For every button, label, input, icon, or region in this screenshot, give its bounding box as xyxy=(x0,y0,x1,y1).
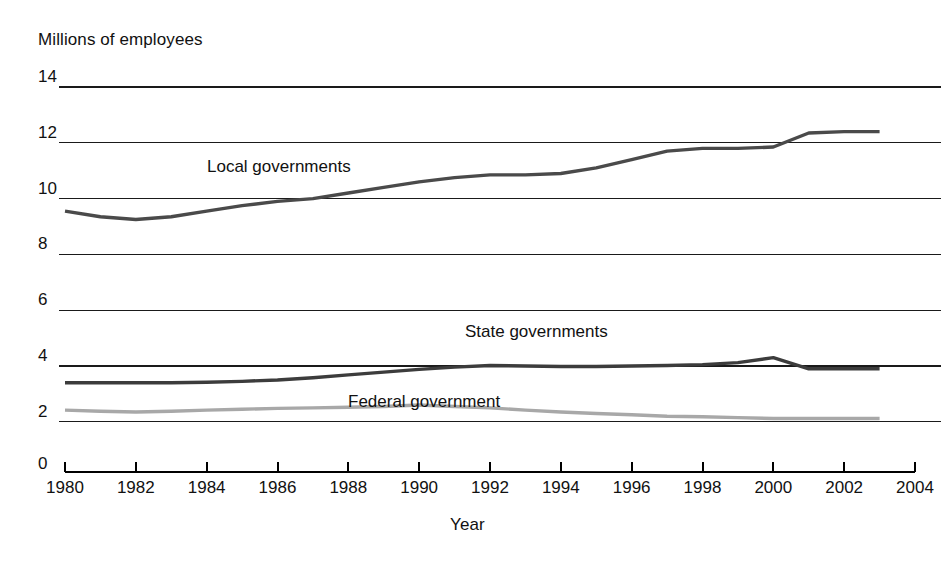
series-line-local-governments xyxy=(65,132,880,220)
x-tick-label-1994: 1994 xyxy=(542,478,580,498)
y-tick-label-2: 2 xyxy=(38,402,47,422)
chart-figure: Millions of employees 14121086420 198019… xyxy=(0,0,952,564)
x-tick-label-1990: 1990 xyxy=(400,478,438,498)
y-tick-label-10: 10 xyxy=(38,179,57,199)
x-tick-label-1980: 1980 xyxy=(46,478,84,498)
x-axis-title: Year xyxy=(450,515,485,535)
x-tick-label-1984: 1984 xyxy=(188,478,226,498)
x-axis-group xyxy=(65,462,915,472)
series-group xyxy=(65,132,880,419)
x-tick-label-1996: 1996 xyxy=(613,478,651,498)
gridlines-group xyxy=(59,87,941,422)
x-tick-label-2004: 2004 xyxy=(896,478,934,498)
y-tick-label-14: 14 xyxy=(38,67,57,87)
y-tick-label-0: 0 xyxy=(38,454,47,474)
series-label-local-governments: Local governments xyxy=(207,157,351,177)
x-tick-label-1988: 1988 xyxy=(329,478,367,498)
x-tick-label-1992: 1992 xyxy=(471,478,509,498)
y-tick-label-12: 12 xyxy=(38,123,57,143)
y-tick-label-8: 8 xyxy=(38,234,47,254)
x-tick-label-2000: 2000 xyxy=(754,478,792,498)
x-tick-label-1986: 1986 xyxy=(259,478,297,498)
series-label-federal-government: Federal government xyxy=(348,392,500,412)
series-line-state-governments xyxy=(65,358,880,383)
series-label-state-governments: State governments xyxy=(465,322,608,342)
y-tick-label-4: 4 xyxy=(38,346,47,366)
x-tick-label-1982: 1982 xyxy=(117,478,155,498)
x-tick-label-2002: 2002 xyxy=(825,478,863,498)
x-tick-label-1998: 1998 xyxy=(684,478,722,498)
y-tick-label-6: 6 xyxy=(38,290,47,310)
